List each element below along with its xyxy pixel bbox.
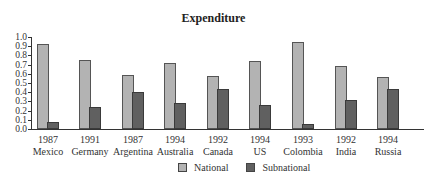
bar-subnational-russia	[387, 89, 399, 129]
y-tick-label: 0.5	[0, 78, 27, 88]
y-tick-label: 0.6	[0, 69, 27, 79]
bar-subnational-colombia	[302, 124, 314, 129]
y-tick-label: 0.2	[0, 106, 27, 116]
y-tick-label: 0.3	[0, 96, 27, 106]
bar-subnational-mexico	[47, 122, 59, 129]
x-tick-country: Russia	[358, 146, 418, 158]
legend-item-subnational: Subnational	[246, 162, 310, 173]
legend-label: National	[194, 162, 228, 173]
x-tick-year: 1994	[358, 134, 418, 146]
y-tick-label: 0.0	[0, 124, 27, 134]
bar-subnational-australia	[174, 103, 186, 129]
y-tick-label: 1.0	[0, 32, 27, 42]
x-axis-line	[31, 129, 424, 130]
y-tick-label: 0.4	[0, 87, 27, 97]
y-tick-label: 0.9	[0, 41, 27, 51]
y-tick-label: 0.7	[0, 60, 27, 70]
bar-subnational-argentina	[132, 92, 144, 129]
chart-title: Expenditure	[0, 11, 427, 26]
bar-subnational-germany	[89, 107, 101, 129]
bar-national-mexico	[37, 44, 49, 129]
expenditure-chart: Expenditure 0.00.10.20.30.40.50.60.70.80…	[0, 0, 427, 181]
plot-area	[31, 37, 424, 129]
legend-swatch-icon	[246, 163, 255, 172]
bar-national-colombia	[292, 42, 304, 129]
legend: NationalSubnational	[178, 162, 328, 173]
y-tick-label: 0.1	[0, 115, 27, 125]
x-tick-label: 1994Russia	[358, 134, 418, 158]
legend-item-national: National	[178, 162, 228, 173]
bar-subnational-us	[259, 105, 271, 129]
legend-swatch-icon	[178, 163, 187, 172]
bar-subnational-india	[345, 100, 357, 129]
bar-subnational-canada	[217, 89, 229, 129]
legend-label: Subnational	[262, 162, 310, 173]
y-tick-label: 0.8	[0, 50, 27, 60]
